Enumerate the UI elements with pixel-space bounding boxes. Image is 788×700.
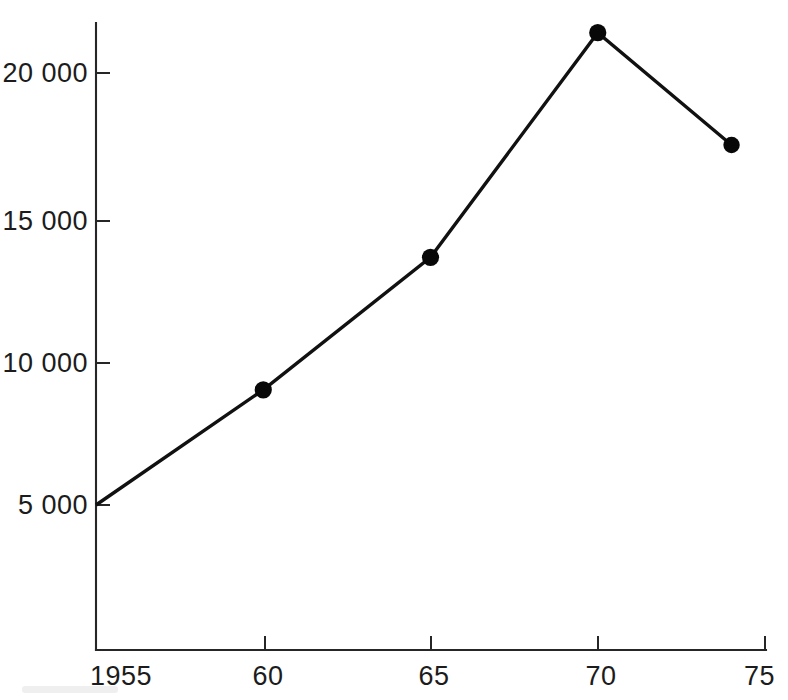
- y-tick-label-15000: 15 000: [2, 206, 88, 236]
- x-tick-label-70: 70: [585, 661, 616, 691]
- x-axis-ticks: [265, 636, 765, 650]
- series-line: [96, 33, 732, 505]
- y-tick-label-5000: 5 000: [18, 490, 88, 520]
- line-chart: 20 000 15 000 10 000 5 000 1955 60 65 70…: [0, 0, 788, 700]
- y-tick-label-20000: 20 000: [2, 58, 88, 88]
- x-tick-label-75: 75: [744, 661, 775, 691]
- chart-canvas: 20 000 15 000 10 000 5 000 1955 60 65 70…: [0, 0, 788, 700]
- scan-artifact: [22, 686, 118, 693]
- y-axis-tick-labels: 20 000 15 000 10 000 5 000: [2, 58, 88, 520]
- series-markers: [255, 24, 740, 398]
- y-tick-label-10000: 10 000: [2, 348, 88, 378]
- data-point-marker: [589, 24, 606, 41]
- data-point-marker: [422, 249, 439, 266]
- x-axis-tick-labels: 1955 60 65 70 75: [90, 661, 775, 691]
- x-tick-label-60: 60: [252, 661, 283, 691]
- x-tick-label-65: 65: [418, 661, 449, 691]
- data-point-marker: [255, 381, 272, 398]
- data-point-marker: [723, 137, 739, 153]
- y-axis-ticks: [96, 73, 110, 505]
